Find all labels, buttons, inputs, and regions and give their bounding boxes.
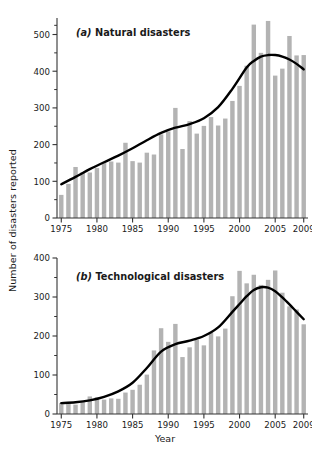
y-tick-label: 0 xyxy=(45,409,50,419)
bar xyxy=(252,25,256,218)
bar xyxy=(145,375,149,414)
bar xyxy=(102,162,106,218)
x-tick-label: 1985 xyxy=(122,224,144,234)
bar xyxy=(80,402,84,414)
panel-title-letter: (b) xyxy=(76,271,92,282)
bar xyxy=(59,403,63,414)
x-tick-label: 2005 xyxy=(264,420,286,430)
bar xyxy=(223,119,227,218)
bar xyxy=(187,121,191,218)
bar xyxy=(287,306,291,414)
bar xyxy=(294,55,298,218)
x-tick-label: 1995 xyxy=(193,224,215,234)
x-tick-label: 1990 xyxy=(157,224,179,234)
bar xyxy=(223,329,227,414)
y-tick-label: 300 xyxy=(34,292,50,302)
bar xyxy=(59,195,63,218)
panel-title-text: Technological disasters xyxy=(92,271,224,282)
bar xyxy=(294,309,298,414)
bar xyxy=(195,134,199,218)
bar xyxy=(138,163,142,218)
bar xyxy=(173,324,177,414)
panel-a-natural-disasters: 0100200300400500197519801985199019952000… xyxy=(18,4,312,244)
bar xyxy=(123,393,127,414)
bar xyxy=(102,400,106,414)
bar xyxy=(230,101,234,218)
x-tick-label: 1985 xyxy=(122,420,144,430)
y-axis-title: Number of disasters reported xyxy=(7,106,18,336)
panel-title: (a) Natural disasters xyxy=(76,27,190,38)
bar xyxy=(95,168,99,218)
bar xyxy=(280,69,284,218)
panel-title-letter: (a) xyxy=(76,27,92,38)
x-tick-label: 1995 xyxy=(193,420,215,430)
x-tick-label: 2009 xyxy=(293,224,312,234)
disasters-figure: Number of disasters reported 01002003004… xyxy=(0,0,312,454)
bar xyxy=(116,399,120,414)
bar xyxy=(173,108,177,218)
bar xyxy=(116,163,120,218)
bar xyxy=(195,340,199,414)
bar xyxy=(73,167,77,218)
y-tick-label: 200 xyxy=(34,140,50,150)
bar xyxy=(237,86,241,218)
bar xyxy=(66,402,70,414)
bar xyxy=(202,126,206,218)
bar xyxy=(209,117,213,218)
panel-title: (b) Technological disasters xyxy=(76,271,224,282)
bar xyxy=(237,271,241,414)
bar xyxy=(130,161,134,218)
bar xyxy=(130,390,134,414)
x-tick-label: 1990 xyxy=(157,420,179,430)
y-tick-label: 300 xyxy=(34,103,50,113)
bar xyxy=(252,275,256,414)
y-axis-title-container: Number of disasters reported xyxy=(0,0,18,454)
panel-a-plot: 0100200300400500197519801985199019952000… xyxy=(18,4,312,244)
bar xyxy=(88,173,92,219)
bar xyxy=(187,347,191,414)
bar xyxy=(109,161,113,218)
x-axis-title: Year xyxy=(18,433,312,444)
y-tick-label: 100 xyxy=(34,370,50,380)
bar xyxy=(244,283,248,414)
bar xyxy=(287,36,291,218)
bar xyxy=(180,357,184,414)
bar xyxy=(152,155,156,218)
y-tick-label: 400 xyxy=(34,253,50,263)
bar xyxy=(216,336,220,414)
bar xyxy=(159,328,163,414)
bar xyxy=(73,405,77,414)
x-tick-label: 1975 xyxy=(50,420,72,430)
bar-group xyxy=(59,21,306,218)
bar xyxy=(266,280,270,414)
bar xyxy=(244,66,248,218)
bar xyxy=(145,153,149,218)
bar xyxy=(138,385,142,414)
bar xyxy=(159,134,163,218)
bar xyxy=(209,333,213,414)
y-tick-label: 100 xyxy=(34,177,50,187)
bar xyxy=(216,126,220,218)
bar xyxy=(302,324,306,414)
bar xyxy=(80,172,84,218)
y-tick-label: 500 xyxy=(34,30,50,40)
y-tick-label: 0 xyxy=(45,213,50,223)
x-tick-label: 1980 xyxy=(86,420,108,430)
bar xyxy=(273,76,277,218)
panel-b-technological-disasters: 0100200300400197519801985199019952000200… xyxy=(18,244,312,454)
x-tick-label: 2000 xyxy=(229,224,251,234)
x-tick-label: 2005 xyxy=(264,224,286,234)
y-tick-label: 200 xyxy=(34,331,50,341)
bar xyxy=(302,55,306,218)
bar xyxy=(266,21,270,218)
x-tick-label: 1975 xyxy=(50,224,72,234)
x-tick-label: 2009 xyxy=(293,420,312,430)
x-tick-label: 2000 xyxy=(229,420,251,430)
bar xyxy=(166,131,170,218)
bar xyxy=(66,184,70,218)
bar xyxy=(109,398,113,414)
x-tick-label: 1980 xyxy=(86,224,108,234)
bar xyxy=(259,285,263,414)
panel-title-text: Natural disasters xyxy=(92,27,191,38)
y-tick-label: 400 xyxy=(34,67,50,77)
